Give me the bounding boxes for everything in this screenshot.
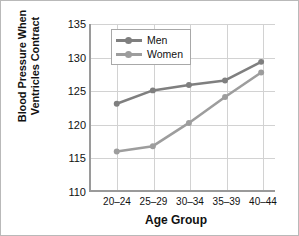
legend-item-women: Women	[116, 47, 183, 61]
data-point-women-1	[150, 143, 156, 149]
legend-label-men: Men	[147, 34, 167, 46]
x-tick-label-4: 40–44	[249, 196, 277, 207]
data-point-men-3	[222, 77, 228, 83]
legend-item-men: Men	[116, 33, 183, 47]
chart-legend: MenWomen	[111, 29, 191, 65]
x-axis-title: Age Group	[61, 213, 291, 227]
data-point-men-4	[258, 59, 264, 65]
data-point-women-2	[186, 120, 192, 126]
legend-swatch-women-icon	[116, 49, 142, 59]
y-tick-label-120: 120	[68, 119, 86, 131]
y-tick-label-110: 110	[68, 186, 86, 198]
data-point-men-2	[186, 82, 192, 88]
data-point-women-3	[222, 94, 228, 100]
x-tick-label-3: 35–39	[213, 196, 241, 207]
y-axis-title-line-2: Ventricles Contract	[29, 0, 42, 156]
y-tick-label-115: 115	[68, 152, 86, 164]
legend-swatch-men-icon	[116, 35, 142, 45]
y-axis-title: Blood Pressure When Ventricles Contract	[16, 0, 42, 156]
legend-label-women: Women	[147, 48, 183, 60]
y-tick-label-125: 125	[68, 85, 86, 97]
x-tick-label-2: 30–34	[176, 196, 204, 207]
x-tick-label-0: 20–24	[103, 196, 131, 207]
data-point-men-1	[150, 87, 156, 93]
data-point-women-4	[258, 70, 264, 76]
chart-figure: Blood Pressure When Ventricles Contract …	[0, 0, 299, 236]
data-point-women-0	[114, 149, 120, 155]
y-tick-label-130: 130	[68, 52, 86, 64]
x-tick-label-1: 25–29	[140, 196, 168, 207]
y-tick-label-135: 135	[68, 18, 86, 30]
data-point-men-0	[114, 101, 120, 107]
y-axis-title-line-1: Blood Pressure When	[16, 0, 29, 156]
plot-area: 110115120125130135 20–2425–2930–3435–394…	[89, 24, 275, 192]
